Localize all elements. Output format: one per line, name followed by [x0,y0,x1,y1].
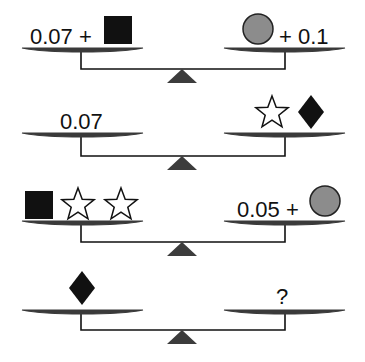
right-pan-contents: ? [276,284,288,309]
fulcrum-triangle [167,156,197,170]
square-icon [104,16,132,44]
left-pan-contents: 0.07 + [30,16,132,49]
left-pan-contents [25,188,137,219]
left-pan-contents: 0.07 [60,109,103,134]
fulcrum-triangle [167,330,197,344]
right-pan-contents [256,95,324,129]
square-icon [25,191,53,219]
diamond-icon [298,95,324,129]
number-label: 0.07 [60,109,103,134]
left-pan-contents [69,271,95,305]
balance-puzzle-diagram: 0.07 ++ 0.10.070.05 +? [0,0,365,362]
number-label: + 0.1 [279,24,329,49]
left-plate [22,221,143,225]
diamond-icon [69,271,95,305]
balance-scale-2: 0.07 [22,95,345,170]
balance-scale-3: 0.05 + [22,186,345,256]
unknown-question-mark: ? [276,284,288,309]
right-plate [224,310,345,314]
number-label: 0.05 + [237,197,299,222]
balance-scale-1: 0.07 ++ 0.1 [22,14,345,83]
balance-scale-4: ? [22,271,345,344]
beam [81,136,285,156]
circle-icon [243,14,273,44]
beam [81,224,285,242]
circle-icon [310,186,340,216]
right-pan-contents: 0.05 + [237,186,340,222]
fulcrum-triangle [167,242,197,256]
beam [81,51,285,69]
star-icon [256,96,288,127]
left-plate [22,310,143,314]
star-icon [62,188,94,219]
beam [81,313,285,330]
right-plate [224,133,345,137]
number-label: 0.07 + [30,24,92,49]
right-pan-contents: + 0.1 [243,14,329,49]
star-icon [105,188,137,219]
fulcrum-triangle [167,69,197,83]
